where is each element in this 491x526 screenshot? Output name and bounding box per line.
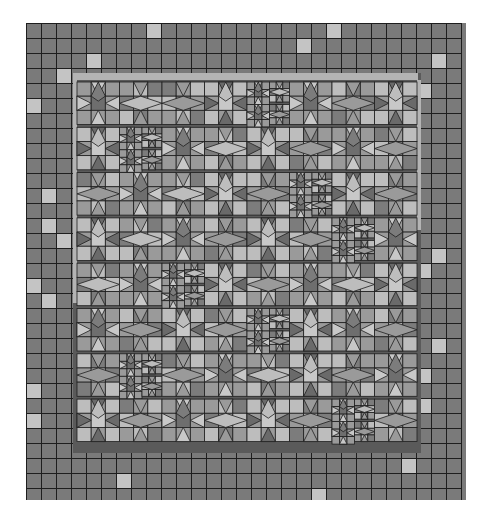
- border-cell: [117, 54, 132, 69]
- star-block-cell: [162, 246, 176, 260]
- diamond-block-cell: [290, 427, 304, 441]
- diamond-block-cell: [148, 399, 162, 413]
- double-star-block-cell: [262, 309, 270, 317]
- border-cell: [402, 474, 417, 489]
- border-cell: [42, 234, 57, 249]
- border-cell: [132, 489, 147, 501]
- star-block-cell: [205, 201, 219, 215]
- border-cell: [447, 444, 462, 459]
- border-cell: [57, 279, 72, 294]
- quilt-diagram: [26, 23, 466, 500]
- diamond-block-cell: [375, 127, 389, 141]
- diamond-block-cell: [290, 127, 304, 141]
- double-side-cell: [155, 163, 162, 170]
- border-cell: [162, 54, 177, 69]
- border-cell: [342, 489, 357, 501]
- double-side-cell: [270, 118, 277, 125]
- double-star-block-cell: [177, 263, 185, 271]
- inner-strip-top: [75, 73, 418, 80]
- border-cell: [57, 24, 72, 39]
- double-side-cell: [185, 277, 192, 284]
- diamond-block-cell: [233, 427, 247, 441]
- diamond-block-cell: [190, 382, 204, 396]
- border-cell: [387, 54, 402, 69]
- border-cell: [447, 324, 462, 339]
- diamond-block-cell: [205, 309, 219, 323]
- double-side-cell: [155, 127, 162, 134]
- border-cell: [27, 489, 42, 501]
- star-block-cell: [375, 218, 389, 232]
- diamond-block-cell: [318, 427, 332, 441]
- double-star-block-cell: [120, 391, 128, 399]
- border-cell: [387, 24, 402, 39]
- star-block-cell: [332, 127, 346, 141]
- diamond-block-cell: [162, 82, 176, 96]
- star-block-cell: [162, 156, 176, 170]
- diamond-block-cell: [233, 309, 247, 323]
- border-cell: [297, 54, 312, 69]
- double-star-block-cell: [347, 218, 355, 226]
- star-block-cell: [105, 218, 119, 232]
- diamond-block-cell: [275, 173, 289, 187]
- diamond-block-cell: [190, 110, 204, 124]
- border-cell: [417, 474, 432, 489]
- border-cell: [192, 474, 207, 489]
- double-side-cell: [368, 435, 375, 442]
- border-cell: [282, 54, 297, 69]
- border-cell: [162, 24, 177, 39]
- star-block-cell: [318, 354, 332, 368]
- diamond-block-cell: [233, 399, 247, 413]
- star-block-cell: [247, 399, 261, 413]
- double-side-cell: [312, 208, 319, 215]
- double-star-block-cell: [247, 324, 255, 332]
- double-side-cell: [142, 150, 149, 157]
- star-block-cell: [148, 173, 162, 187]
- star-block-cell: [162, 218, 176, 232]
- double-star-block-cell: [332, 218, 340, 226]
- star-block-cell: [332, 156, 346, 170]
- border-cell: [432, 309, 447, 324]
- star-block-cell: [318, 337, 332, 351]
- border-cell: [42, 324, 57, 339]
- star-block-cell: [375, 382, 389, 396]
- border-cell: [192, 459, 207, 474]
- border-cell: [177, 24, 192, 39]
- star-block-cell: [190, 399, 204, 413]
- diamond-block-cell: [162, 382, 176, 396]
- double-side-cell: [270, 95, 277, 102]
- border-cell: [297, 474, 312, 489]
- border-cell: [327, 459, 342, 474]
- border-cell: [282, 474, 297, 489]
- border-cell: [42, 309, 57, 324]
- diamond-block-cell: [105, 263, 119, 277]
- border-cell: [27, 204, 42, 219]
- star-block-cell: [332, 337, 346, 351]
- diamond-block-cell: [332, 292, 346, 306]
- diamond-block-cell: [77, 292, 91, 306]
- star-block-cell: [403, 354, 417, 368]
- border-cell: [267, 459, 282, 474]
- border-cell: [387, 459, 402, 474]
- double-star-block-cell: [162, 278, 170, 286]
- border-cell: [282, 459, 297, 474]
- diamond-block-cell: [148, 309, 162, 323]
- diamond-block-cell: [205, 399, 219, 413]
- star-block-cell: [375, 82, 389, 96]
- star-block-cell: [233, 201, 247, 215]
- border-cell: [432, 354, 447, 369]
- border-cell: [297, 459, 312, 474]
- border-cell: [432, 264, 447, 279]
- border-cell: [432, 339, 447, 354]
- border-cell: [42, 114, 57, 129]
- diamond-block-cell: [332, 110, 346, 124]
- border-cell: [27, 429, 42, 444]
- border-cell: [342, 474, 357, 489]
- border-cell: [327, 39, 342, 54]
- diamond-block-cell: [403, 399, 417, 413]
- star-block-cell: [247, 427, 261, 441]
- double-side-cell: [355, 254, 362, 261]
- border-cell: [57, 474, 72, 489]
- double-side-cell: [355, 435, 362, 442]
- double-star-block-cell: [262, 105, 270, 113]
- diamond-block-cell: [162, 201, 176, 215]
